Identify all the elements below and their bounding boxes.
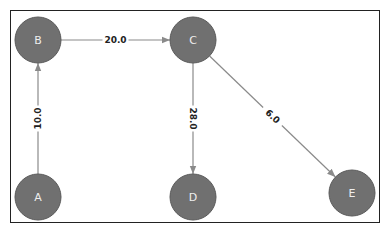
edge-weight-label: 20.0 (104, 35, 126, 45)
node-C: C (170, 17, 216, 63)
node-label: D (189, 191, 197, 204)
node-label: B (34, 34, 42, 47)
edge-weight-label: 28.0 (188, 107, 198, 129)
edge-weight-label: 10.0 (33, 107, 43, 129)
node-label: E (349, 187, 356, 200)
node-label: C (189, 34, 197, 47)
node-label: A (34, 191, 42, 204)
node-A: A (15, 174, 61, 220)
node-E: E (329, 170, 375, 216)
node-B: B (15, 17, 61, 63)
node-D: D (170, 174, 216, 220)
directed-graph: 10.020.028.06.0 ABCDE (0, 0, 388, 235)
